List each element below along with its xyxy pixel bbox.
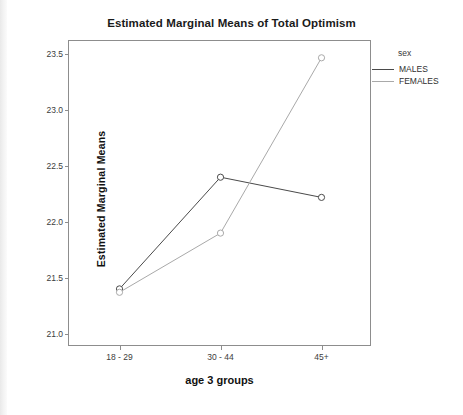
data-point-marker (116, 289, 122, 295)
legend-item-label: MALES (399, 64, 428, 74)
data-point-marker (217, 174, 223, 180)
legend-item-label: FEMALES (399, 76, 439, 86)
data-point-marker (318, 194, 324, 200)
legend-entries: MALESFEMALES (386, 63, 460, 87)
x-axis-tick-label: 30 - 44 (181, 352, 261, 362)
x-axis-tick-label: 18 - 29 (80, 352, 160, 362)
x-axis-tick-label: 45+ (282, 352, 362, 362)
chart-figure: Estimated Marginal Means of Total Optimi… (0, 0, 463, 415)
y-axis-tick-label: 21.5 (9, 273, 69, 283)
y-axis-tick-label: 23.5 (9, 49, 69, 59)
chart-title: Estimated Marginal Means of Total Optimi… (0, 17, 463, 29)
data-point-marker (217, 230, 223, 236)
x-axis-title: age 3 groups (68, 374, 371, 386)
data-point-marker (318, 55, 324, 61)
y-axis-tick-label: 23.0 (9, 105, 69, 115)
y-axis-tick-label: 22.0 (9, 217, 69, 227)
y-axis-tick-label: 21.0 (9, 329, 69, 339)
legend-line-swatch (372, 81, 394, 82)
legend-item-males[interactable]: MALES (372, 63, 460, 75)
legend-line-swatch (372, 69, 394, 70)
legend: sex MALESFEMALES (386, 48, 460, 87)
legend-title: sex (398, 48, 460, 58)
legend-item-females[interactable]: FEMALES (372, 75, 460, 87)
y-axis-tick-label: 22.5 (9, 161, 69, 171)
series-layer (69, 41, 372, 347)
plot-area: Estimated Marginal Means 21.021.522.022.… (68, 40, 371, 346)
